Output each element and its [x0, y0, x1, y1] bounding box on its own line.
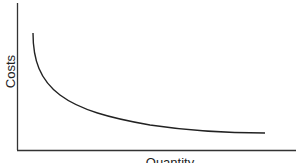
x-axis-label: Quantity — [120, 155, 220, 163]
y-axis-label: Costs — [3, 48, 18, 96]
cost-curve — [33, 33, 265, 133]
chart-plot — [0, 0, 296, 163]
